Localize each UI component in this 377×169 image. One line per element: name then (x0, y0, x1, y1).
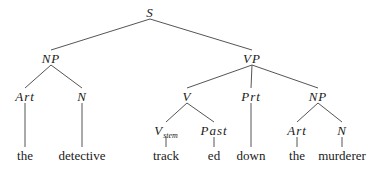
word-track: track (153, 149, 179, 162)
word-the-1: the (17, 149, 33, 162)
node-past: Past (200, 124, 227, 137)
tree-edge (187, 65, 252, 88)
word-ed: ed (208, 149, 220, 162)
node-prt: Prt (241, 90, 261, 103)
tree-edge (51, 19, 150, 50)
node-np-subject: NP (42, 52, 61, 65)
tree-edge (252, 65, 318, 88)
node-s: S (146, 6, 154, 19)
word-murderer: murderer (318, 149, 366, 162)
tree-edges (0, 0, 377, 169)
syntax-tree-diagram: S NP VP Art N V Prt NP Vstem Past Art N … (0, 0, 377, 169)
tree-edge (251, 65, 252, 88)
node-np-object: NP (309, 90, 328, 103)
node-v-stem: Vstem (154, 124, 178, 137)
tree-edge (187, 103, 214, 122)
node-n-object: N (337, 124, 347, 137)
node-n-subject: N (77, 90, 87, 103)
node-v-stem-subscript: stem (163, 131, 178, 140)
node-art-object: Art (287, 124, 307, 137)
node-v-stem-label: V (154, 123, 163, 138)
word-the-2: the (289, 149, 305, 162)
word-down: down (237, 149, 266, 162)
tree-edge (297, 103, 318, 122)
tree-edge (166, 103, 187, 122)
node-v: V (183, 90, 192, 103)
node-vp: VP (243, 52, 261, 65)
tree-edge (150, 19, 252, 50)
tree-edge (51, 65, 82, 88)
tree-edge (318, 103, 342, 122)
word-detective: detective (59, 149, 106, 162)
tree-edge (25, 65, 51, 88)
node-art-subject: Art (15, 90, 35, 103)
